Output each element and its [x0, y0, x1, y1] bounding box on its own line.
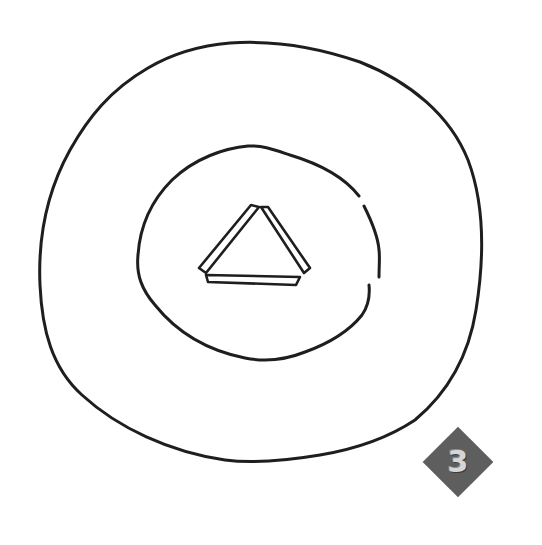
triangle-bottom-bar — [206, 275, 300, 285]
inner-circle — [138, 146, 370, 360]
step-number-badge: 3 — [421, 425, 495, 499]
badge-label: 3 — [421, 425, 495, 499]
triangle-right-bar — [261, 207, 310, 273]
outer-circle — [40, 42, 482, 461]
inner-circle-segment — [364, 206, 379, 277]
center-triangle — [199, 205, 310, 285]
triangle-left-bar — [199, 205, 259, 273]
